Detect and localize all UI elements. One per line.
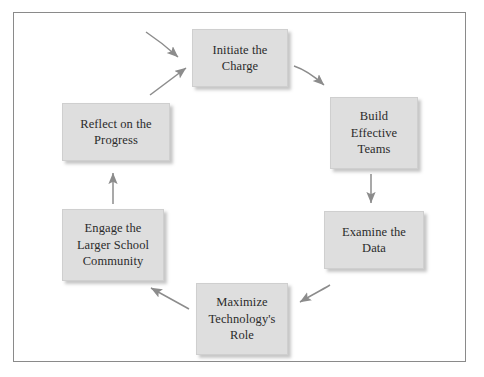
node-examine-the-data[interactable]: Examine theData xyxy=(324,211,424,269)
node-build-label: BuildEffectiveTeams xyxy=(347,108,401,158)
node-initiate-label: Initiate theCharge xyxy=(209,42,272,75)
node-engage-the-larger-school-community[interactable]: Engage theLarger SchoolCommunity xyxy=(62,209,164,281)
node-engage-label: Engage theLarger SchoolCommunity xyxy=(73,220,153,270)
node-reflect-on-the-progress[interactable]: Reflect on theProgress xyxy=(62,103,170,161)
node-initiate-the-charge[interactable]: Initiate theCharge xyxy=(192,29,288,87)
node-reflect-label: Reflect on theProgress xyxy=(76,116,156,149)
node-maximize-label: MaximizeTechnology'sRole xyxy=(204,294,279,344)
node-build-effective-teams[interactable]: BuildEffectiveTeams xyxy=(330,97,418,169)
node-maximize-technologys-role[interactable]: MaximizeTechnology'sRole xyxy=(196,283,288,355)
node-examine-label: Examine theData xyxy=(338,224,410,257)
diagram-canvas: Initiate theCharge BuildEffectiveTeams E… xyxy=(0,0,484,377)
